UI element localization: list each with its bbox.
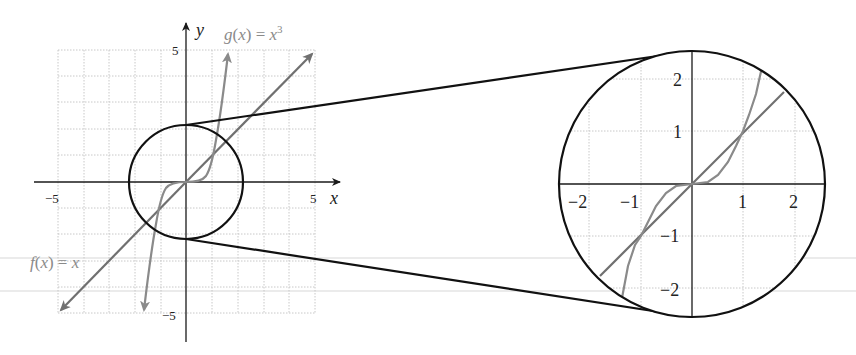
mag-x-tick-1: 1: [738, 192, 747, 212]
y-tick-5: 5: [172, 43, 179, 58]
x-tick-neg5: −5: [45, 191, 59, 206]
f-label: f(x) = x: [30, 253, 80, 272]
f-line: [186, 54, 312, 182]
y-tick-neg5: −5: [162, 308, 176, 323]
mag-x-tick-neg1: −1: [620, 192, 639, 212]
g-curve: [186, 54, 228, 182]
magnified-view: −2 −1 1 2 2 1 −1 −2: [550, 40, 840, 330]
function-comparison-diagram: 5 −5 −5 5 x y g(x) = x3 f(x) = x −: [0, 0, 856, 355]
y-axis-label: y: [194, 20, 204, 40]
g-label: g(x) = x3: [224, 23, 283, 44]
mag-y-tick-1: 1: [673, 122, 682, 142]
mag-y-tick-neg1: −1: [660, 226, 679, 246]
x-tick-5: 5: [310, 191, 317, 206]
x-axis-label: x: [329, 188, 338, 208]
mag-y-tick-2: 2: [673, 70, 682, 90]
mag-x-tick-neg2: −2: [568, 192, 587, 212]
left-graph: 5 −5 −5 5 x y g(x) = x3 f(x) = x: [30, 20, 340, 342]
mag-y-tick-neg2: −2: [660, 280, 679, 300]
mag-x-tick-2: 2: [789, 192, 798, 212]
